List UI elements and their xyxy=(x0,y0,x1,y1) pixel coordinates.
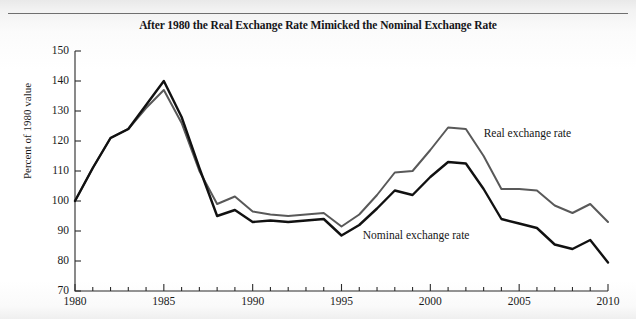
y-tick-label: 80 xyxy=(37,254,69,266)
y-tick-label: 110 xyxy=(37,164,69,176)
series-line-real xyxy=(75,90,608,227)
figure-container: After 1980 the Real Exchange Rate Mimick… xyxy=(0,0,636,319)
y-tick-label: 100 xyxy=(37,194,69,206)
series-line-nominal xyxy=(75,81,608,263)
y-tick-label: 70 xyxy=(37,284,69,296)
x-tick-label: 1980 xyxy=(51,295,99,307)
plot-area: Percent of 1980 value 150140130120110100… xyxy=(0,0,636,319)
y-tick-label: 90 xyxy=(37,224,69,236)
x-tick-label: 2010 xyxy=(584,295,632,307)
y-tick-label: 130 xyxy=(37,104,69,116)
x-tick-label: 1995 xyxy=(318,295,366,307)
x-tick-label: 1990 xyxy=(229,295,277,307)
y-tick-label: 120 xyxy=(37,134,69,146)
chart-svg xyxy=(0,0,636,319)
x-tick-label: 2000 xyxy=(406,295,454,307)
series-label-real: Real exchange rate xyxy=(484,127,571,139)
x-tick-label: 2005 xyxy=(495,295,543,307)
y-tick-label: 150 xyxy=(37,44,69,56)
y-tick-label: 140 xyxy=(37,74,69,86)
x-tick-label: 1985 xyxy=(140,295,188,307)
series-label-nominal: Nominal exchange rate xyxy=(363,229,470,241)
